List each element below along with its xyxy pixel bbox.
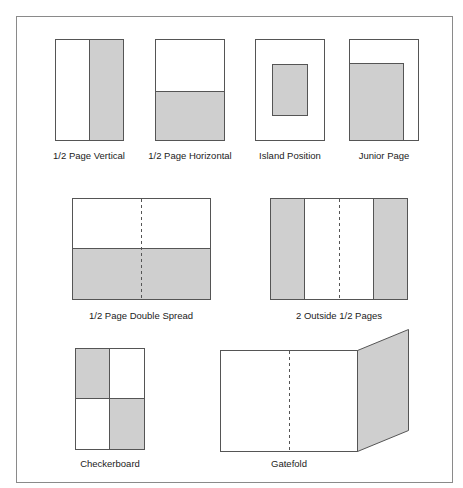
layout-label: Checkerboard (80, 458, 140, 469)
layout-label: Gatefold (271, 458, 307, 469)
ad-area (156, 92, 225, 141)
layout-label: 1/2 Page Double Spread (89, 310, 193, 321)
ad-layouts-diagram: 1/2 Page Vertical 1/2 Page Horizontal Is… (0, 0, 463, 488)
ad-area-bottom-right (110, 399, 145, 450)
ad-area (90, 40, 124, 141)
layout-label: Island Position (259, 150, 321, 161)
layout-label: Junior Page (359, 150, 410, 161)
ad-area-top-left (76, 349, 110, 399)
gatefold-flap-ad (358, 330, 409, 452)
ad-area-right (374, 199, 408, 300)
ad-area-left (271, 199, 305, 300)
ad-area (350, 64, 404, 141)
layout-label: 1/2 Page Vertical (53, 150, 125, 161)
layout-label: 1/2 Page Horizontal (148, 150, 231, 161)
layout-label: 2 Outside 1/2 Pages (296, 310, 382, 321)
ad-area (273, 65, 308, 116)
